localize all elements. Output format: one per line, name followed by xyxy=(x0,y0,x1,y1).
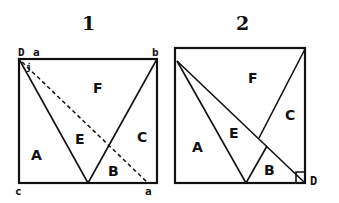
figure-1-title: 1 xyxy=(82,12,95,34)
label-b: b xyxy=(152,46,159,59)
figure-1-square xyxy=(19,59,157,183)
region-C: C xyxy=(285,107,295,123)
region-E: E xyxy=(229,125,239,141)
figure-2-line-right xyxy=(259,49,305,138)
region-A: A xyxy=(192,139,203,155)
figure-1: 1 D a b j c a A E F C B xyxy=(15,12,159,198)
label-a-top: a xyxy=(33,46,40,59)
figure-1-line-right xyxy=(88,59,157,183)
region-B: B xyxy=(264,162,275,178)
label-a-bottom: a xyxy=(145,185,152,198)
label-D: D xyxy=(18,46,25,59)
label-D-fig2: D xyxy=(310,174,317,188)
figure-2-title: 2 xyxy=(236,12,249,34)
region-A: A xyxy=(31,147,42,163)
label-j: j xyxy=(26,62,31,72)
figure-2-line-steep xyxy=(177,61,246,183)
region-F: F xyxy=(248,70,258,86)
figure-2: 2 D A E F C B xyxy=(175,12,317,188)
region-C: C xyxy=(137,129,147,145)
label-c: c xyxy=(15,185,22,198)
figure-1-line-left xyxy=(19,59,88,183)
figure-1-dashed-line xyxy=(22,62,148,183)
region-B: B xyxy=(108,163,119,179)
dissection-diagram: 1 D a b j c a A E F C B 2 D A E F C B xyxy=(0,0,339,203)
region-F: F xyxy=(93,80,103,96)
region-E: E xyxy=(75,131,85,147)
